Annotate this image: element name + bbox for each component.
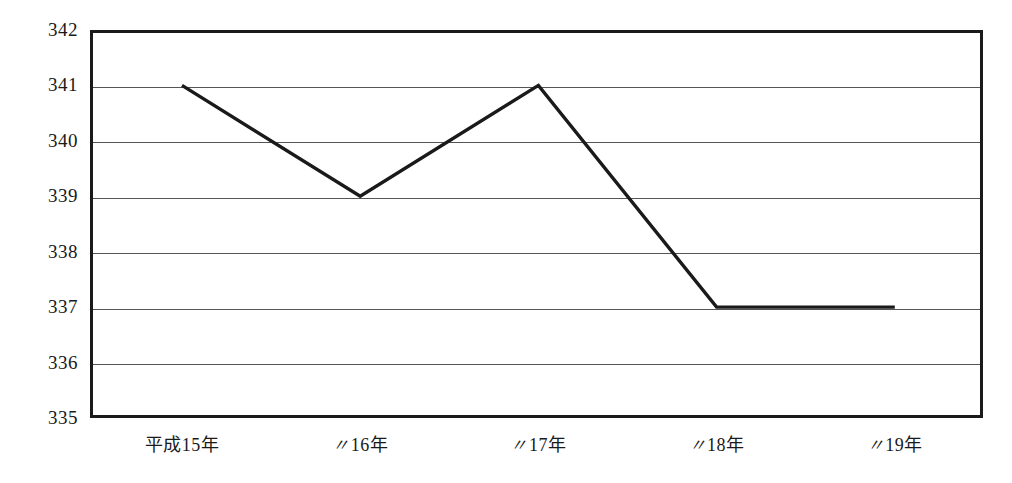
ditto-mark: 〃	[332, 436, 351, 455]
x-tick-label: 〃17年	[510, 434, 566, 457]
x-tick-label: 〃19年	[867, 434, 923, 457]
year-suffix: 年	[726, 435, 745, 455]
year-suffix: 年	[548, 435, 567, 455]
x-tick-label: 〃16年	[332, 434, 388, 457]
ditto-mark: 〃	[689, 436, 708, 455]
ditto-mark: 〃	[510, 436, 529, 455]
era-year-number: 15	[182, 435, 201, 455]
line-chart: 342341340339338337336335 平成15年〃16年〃17年〃1…	[0, 0, 1012, 483]
era-year-number: 18	[707, 435, 726, 455]
era-year-number: 16	[351, 435, 370, 455]
era-year-number: 17	[529, 435, 548, 455]
year-suffix: 年	[904, 435, 923, 455]
x-tick-label: 〃18年	[689, 434, 745, 457]
ditto-mark: 〃	[867, 436, 886, 455]
year-suffix: 年	[201, 435, 220, 455]
x-axis: 平成15年〃16年〃17年〃18年〃19年	[0, 0, 1012, 483]
year-suffix: 年	[370, 435, 389, 455]
era-year-number: 19	[885, 435, 904, 455]
era-name: 平成	[145, 435, 182, 455]
x-tick-label: 平成15年	[145, 434, 220, 456]
